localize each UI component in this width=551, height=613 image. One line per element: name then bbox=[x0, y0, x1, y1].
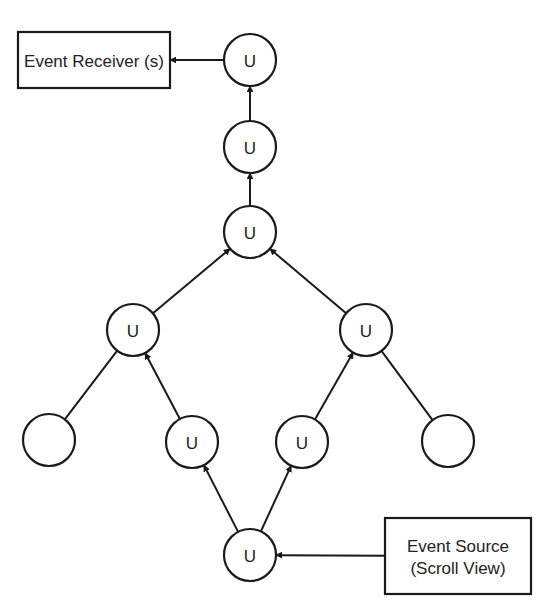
edge-u_left-to-u_mid2-arrow bbox=[153, 249, 230, 314]
edge-u_left_low-to-u_left-arrow bbox=[145, 353, 180, 419]
node-circle bbox=[23, 414, 75, 466]
node-circle bbox=[422, 415, 474, 467]
node-label: U bbox=[244, 52, 256, 71]
node-label: U bbox=[186, 434, 198, 453]
edge-u_right-to-u_mid2-arrow bbox=[270, 249, 346, 313]
box-receiver: Event Receiver (s) bbox=[18, 32, 170, 88]
empty-node-leaf_right bbox=[422, 415, 474, 467]
node-label: U bbox=[296, 434, 308, 453]
node-u_bottom: U bbox=[224, 529, 276, 581]
nodes-layer: UUUUUUUU bbox=[23, 34, 474, 581]
node-u_top: U bbox=[224, 34, 276, 86]
box-label-line: (Scroll View) bbox=[410, 559, 505, 578]
edge-u_right_low-to-u_right-arrow bbox=[315, 353, 353, 420]
node-u_right: U bbox=[340, 304, 392, 356]
edge-leaf_left-to-u_left-line bbox=[65, 351, 117, 420]
node-label: U bbox=[360, 322, 372, 341]
box-label-line: Event Source bbox=[407, 537, 509, 556]
node-u_mid1: U bbox=[224, 121, 276, 173]
node-label: U bbox=[127, 322, 139, 341]
edge-u_bottom-to-u_left_low-arrow bbox=[204, 465, 238, 532]
edge-u_bottom-to-u_right_low-arrow bbox=[261, 466, 291, 532]
edge-source-to-u_bottom-arrow bbox=[276, 555, 385, 556]
node-label: U bbox=[244, 547, 256, 566]
box-label-line: Event Receiver (s) bbox=[24, 52, 164, 71]
empty-node-leaf_left bbox=[23, 414, 75, 466]
node-u_left_low: U bbox=[166, 416, 218, 468]
edge-leaf_right-to-u_right-line bbox=[381, 351, 432, 420]
node-label: U bbox=[244, 139, 256, 158]
node-u_mid2: U bbox=[224, 206, 276, 258]
node-u_right_low: U bbox=[276, 416, 328, 468]
box-border bbox=[385, 518, 531, 594]
node-label: U bbox=[244, 224, 256, 243]
box-source: Event Source(Scroll View) bbox=[385, 518, 531, 594]
boxes-layer: Event Receiver (s)Event Source(Scroll Vi… bbox=[18, 32, 531, 594]
node-u_left: U bbox=[107, 304, 159, 356]
event-propagation-diagram: UUUUUUUU Event Receiver (s)Event Source(… bbox=[0, 0, 551, 613]
